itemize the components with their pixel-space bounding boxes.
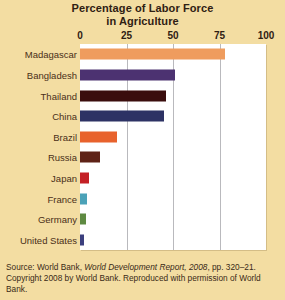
- category-label-japan: Japan: [51, 172, 77, 183]
- category-label-russia: Russia: [48, 152, 77, 163]
- source-line-2: Copyright 2008 by World Bank. Reproduced…: [6, 273, 280, 284]
- source-prefix: Source: World Bank,: [6, 262, 84, 272]
- bar-bangladesh: [80, 69, 175, 80]
- source-line-1: Source: World Bank, World Development Re…: [6, 262, 280, 273]
- bar-brazil: [80, 131, 117, 142]
- bar-france: [80, 193, 87, 204]
- category-axis-labels: MadagascarBangladeshThailandChinaBrazilR…: [0, 44, 77, 250]
- bar-japan: [80, 172, 89, 183]
- source-report-title: World Development Report, 2008: [84, 262, 207, 272]
- category-label-china: China: [52, 111, 77, 122]
- category-label-brazil: Brazil: [53, 131, 77, 142]
- chart-area: 0255075100 MadagascarBangladeshThailandC…: [0, 30, 285, 260]
- x-tick-label-75: 75: [214, 30, 225, 41]
- bar-china: [80, 111, 164, 122]
- category-label-thailand: Thailand: [41, 90, 77, 101]
- figure-container: Percentage of Labor Force in Agriculture…: [0, 0, 285, 300]
- category-label-france: France: [47, 193, 77, 204]
- bar-united-states: [80, 234, 84, 245]
- source-line-3: Bank.: [6, 284, 280, 295]
- x-tick-label-0: 0: [77, 30, 83, 41]
- bar-thailand: [80, 90, 166, 101]
- plot-panel: [80, 44, 266, 250]
- x-tick-label-25: 25: [121, 30, 132, 41]
- category-label-united-states: United States: [20, 234, 77, 245]
- x-axis-tick-labels: 0255075100: [80, 30, 266, 44]
- source-note: Source: World Bank, World Development Re…: [6, 262, 280, 296]
- bar-russia: [80, 152, 100, 163]
- category-label-madagascar: Madagascar: [25, 49, 77, 60]
- chart-title: Percentage of Labor Force in Agriculture: [0, 2, 285, 28]
- bar-germany: [80, 214, 86, 225]
- source-pages: , pp. 320–21.: [207, 262, 255, 272]
- x-tick-label-50: 50: [167, 30, 178, 41]
- x-tick-label-100: 100: [258, 30, 275, 41]
- category-label-germany: Germany: [38, 214, 77, 225]
- chart-title-line-1: Percentage of Labor Force: [0, 2, 285, 15]
- category-label-bangladesh: Bangladesh: [27, 69, 77, 80]
- bar-madagascar: [80, 49, 225, 60]
- gridline-75: [220, 44, 221, 250]
- chart-title-line-2: in Agriculture: [0, 15, 285, 28]
